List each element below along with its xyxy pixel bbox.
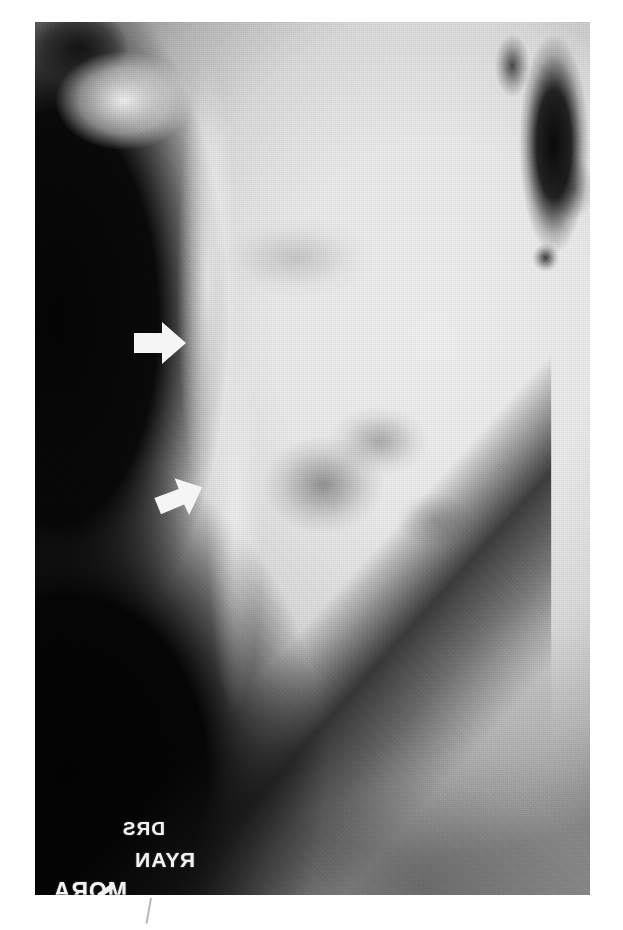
page-background: DRS RYAN MORA [0, 0, 623, 930]
film-grain-texture [35, 22, 590, 895]
lead-marker-ryan: RYAN [134, 848, 195, 872]
upper-annotation-arrow [132, 319, 188, 367]
page-tick-mark [146, 898, 152, 924]
lead-marker-drs: DRS [122, 818, 165, 840]
radiograph-plate: DRS RYAN MORA [35, 22, 590, 895]
lead-marker-tick-icon [95, 882, 129, 895]
